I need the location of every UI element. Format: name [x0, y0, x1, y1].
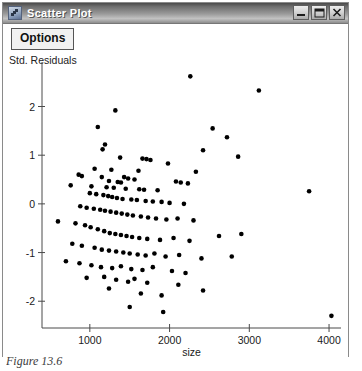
data-point	[88, 225, 93, 230]
data-point	[188, 74, 193, 79]
data-point	[114, 210, 119, 215]
screenshot-root: Scatter Plot	[0, 0, 362, 371]
figure-caption-text: Figure 13.6	[6, 357, 206, 369]
data-point	[145, 237, 150, 242]
data-point	[139, 214, 144, 219]
data-point	[131, 213, 136, 218]
data-point	[166, 161, 171, 166]
data-point	[113, 108, 118, 113]
data-point	[178, 180, 183, 185]
data-point	[177, 253, 182, 258]
data-point	[114, 278, 119, 283]
data-point	[140, 268, 145, 273]
data-point	[176, 282, 181, 287]
data-point	[217, 234, 222, 239]
data-point	[78, 204, 83, 209]
data-point	[199, 256, 204, 261]
minimize-icon	[294, 6, 308, 19]
data-point	[108, 209, 113, 214]
data-point	[175, 216, 180, 221]
minimize-button[interactable]	[293, 5, 309, 20]
data-point	[137, 187, 142, 192]
data-point	[257, 88, 262, 93]
data-point	[100, 175, 105, 180]
data-point	[122, 175, 127, 180]
data-point	[159, 293, 164, 298]
data-point	[171, 236, 176, 241]
data-point	[159, 200, 164, 205]
data-point	[89, 184, 94, 189]
data-point	[107, 231, 112, 236]
data-point	[109, 167, 114, 172]
figure-caption: Figure 13.6	[6, 357, 206, 371]
close-button[interactable]	[329, 5, 345, 20]
data-point	[102, 275, 107, 280]
data-point	[125, 212, 130, 217]
data-point	[135, 198, 140, 203]
data-point	[110, 266, 115, 271]
data-point	[170, 269, 175, 274]
data-point	[107, 179, 112, 184]
data-point	[99, 265, 104, 270]
data-point	[88, 191, 93, 196]
data-point	[191, 218, 196, 223]
data-point	[151, 199, 156, 204]
data-point	[183, 271, 188, 276]
data-point	[89, 263, 94, 268]
data-point	[121, 250, 126, 255]
data-point	[186, 181, 191, 186]
data-point	[146, 215, 151, 220]
data-point	[135, 252, 140, 257]
data-point	[229, 254, 234, 259]
data-point	[329, 314, 334, 319]
data-point	[236, 154, 241, 159]
data-point	[118, 155, 123, 160]
data-point	[126, 279, 131, 284]
data-point	[92, 245, 97, 250]
data-point	[137, 236, 142, 241]
data-point	[119, 233, 124, 238]
data-point	[127, 251, 132, 256]
data-point	[120, 197, 125, 202]
data-point	[158, 238, 163, 243]
options-button[interactable]: Options	[11, 28, 74, 50]
plot-area: Std. Residuals 210-1-21000200030004000si…	[3, 52, 348, 358]
data-point	[194, 169, 199, 174]
data-point	[92, 206, 97, 211]
data-point	[70, 241, 75, 246]
data-point	[94, 192, 99, 197]
x-tick-label: 2000	[158, 334, 182, 346]
data-point	[129, 197, 134, 202]
x-tick-label: 1000	[78, 334, 102, 346]
data-point	[167, 201, 172, 206]
data-point	[124, 234, 129, 239]
data-point	[106, 194, 111, 199]
data-point	[68, 183, 73, 188]
data-point	[83, 223, 88, 228]
data-point	[92, 167, 97, 172]
y-tick-label: 2	[29, 101, 35, 113]
data-point	[145, 280, 150, 285]
scatter-plot-window: Scatter Plot	[2, 2, 349, 357]
data-point	[114, 249, 119, 254]
data-point	[155, 188, 160, 193]
data-point	[225, 135, 230, 140]
window-controls	[293, 5, 345, 20]
y-tick-label: 0	[29, 198, 35, 210]
data-point	[239, 232, 244, 237]
maximize-button[interactable]	[311, 5, 327, 20]
data-point	[80, 174, 85, 179]
data-point	[307, 189, 312, 194]
data-point	[80, 243, 85, 248]
data-point	[102, 229, 107, 234]
y-tick-label: -1	[26, 247, 35, 259]
window-titlebar[interactable]: Scatter Plot	[3, 3, 348, 24]
close-icon	[330, 6, 344, 19]
data-point	[111, 186, 116, 191]
data-point	[123, 186, 128, 191]
data-point	[152, 251, 157, 256]
data-point	[107, 286, 112, 291]
data-point	[110, 195, 115, 200]
data-point	[127, 305, 132, 310]
data-point	[119, 180, 124, 185]
